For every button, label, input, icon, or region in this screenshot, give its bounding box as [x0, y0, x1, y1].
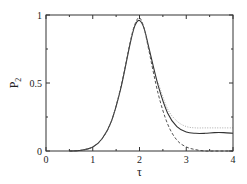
series-dashed-line: [69, 18, 233, 151]
plot-frame: [46, 15, 233, 151]
y-tick-label: 0: [37, 146, 42, 157]
series-dotted-line: [158, 83, 233, 128]
chart: 0123400.51 τ P2: [0, 0, 247, 184]
y-axis-label-subscript: 2: [14, 78, 23, 82]
x-tick-label: 2: [137, 154, 142, 165]
y-tick-label: 0.5: [30, 78, 43, 89]
series-solid-line: [69, 20, 233, 151]
ticks-layer: [46, 15, 233, 151]
x-tick-label: 1: [90, 154, 95, 165]
x-tick-label: 4: [231, 154, 236, 165]
y-tick-label: 1: [37, 10, 42, 21]
series-layer: [69, 18, 233, 151]
x-tick-label: 0: [44, 154, 49, 165]
x-axis-label: τ: [137, 165, 142, 179]
x-tick-label: 3: [184, 154, 189, 165]
y-axis-label: P2: [7, 78, 23, 89]
